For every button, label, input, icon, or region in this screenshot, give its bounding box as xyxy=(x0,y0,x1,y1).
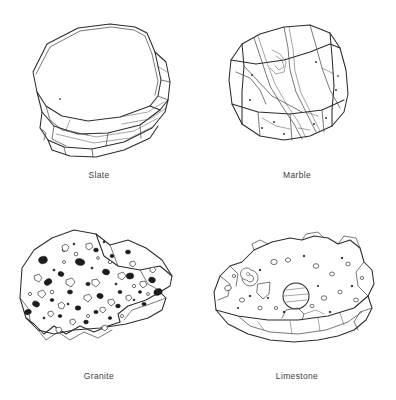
specimen-label-marble: Marble xyxy=(198,170,396,180)
specimen-label-limestone: Limestone xyxy=(198,371,396,381)
specimen-marble: Marble xyxy=(198,0,396,200)
limestone-illustration xyxy=(198,200,396,400)
specimen-label-slate: Slate xyxy=(0,170,198,180)
specimen-label-granite: Granite xyxy=(0,371,198,381)
specimen-granite: Granite xyxy=(0,200,198,400)
rock-specimen-plate: Slate xyxy=(0,0,396,400)
specimen-limestone: Limestone xyxy=(198,200,396,400)
granite-illustration xyxy=(0,200,198,400)
specimen-slate: Slate xyxy=(0,0,198,200)
